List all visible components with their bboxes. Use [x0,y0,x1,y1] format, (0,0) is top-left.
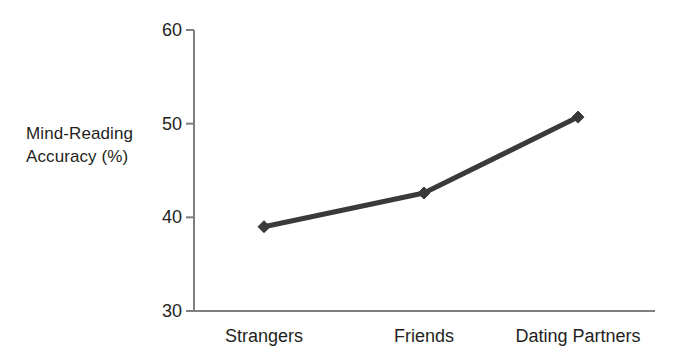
series-line [264,117,578,227]
x-axis-tick-labels: StrangersFriendsDating Partners [0,325,681,355]
axis-lines [194,30,655,311]
series-layer [258,111,584,233]
y-axis-tick-marks [186,30,194,311]
x-tick-label: Strangers [225,325,303,347]
data-point-marker [258,221,270,233]
line-chart: Mind-Reading Accuracy (%) 30405060 Stran… [0,0,681,362]
x-tick-label: Dating Partners [515,325,640,347]
x-tick-label: Friends [394,325,454,347]
plot-area [0,0,681,362]
